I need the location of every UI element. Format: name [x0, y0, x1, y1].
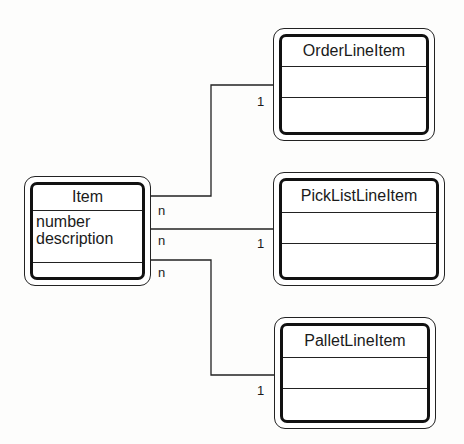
attributes-section — [283, 358, 427, 389]
multiplicity-label: n — [158, 233, 165, 248]
attributes-section — [282, 67, 426, 98]
class-order-line-item[interactable]: OrderLineItem — [273, 28, 435, 141]
operations-section — [33, 263, 142, 277]
association-item-order — [150, 85, 274, 196]
operations-section — [283, 389, 427, 420]
class-name: PickListLineItem — [282, 181, 436, 213]
multiplicity-label: 1 — [257, 383, 264, 398]
class-diagram: Item number description OrderLineItem Pi… — [0, 0, 464, 444]
multiplicity-label: 1 — [257, 236, 264, 251]
association-item-pallet — [150, 260, 274, 375]
attribute: number — [36, 213, 139, 230]
operations-section — [282, 244, 436, 277]
multiplicity-label: n — [158, 265, 165, 280]
class-name: PalletLineItem — [283, 326, 427, 358]
class-pallet-line-item[interactable]: PalletLineItem — [274, 317, 436, 429]
multiplicity-label: 1 — [257, 94, 264, 109]
attribute: description — [36, 230, 139, 247]
attribute-list: number description — [33, 211, 142, 263]
multiplicity-label: n — [158, 203, 165, 218]
class-pick-list-line-item[interactable]: PickListLineItem — [273, 172, 445, 286]
class-item[interactable]: Item number description — [24, 176, 151, 286]
operations-section — [282, 98, 426, 132]
attributes-section — [282, 213, 436, 244]
class-name: OrderLineItem — [282, 37, 426, 67]
class-name: Item — [33, 185, 142, 211]
